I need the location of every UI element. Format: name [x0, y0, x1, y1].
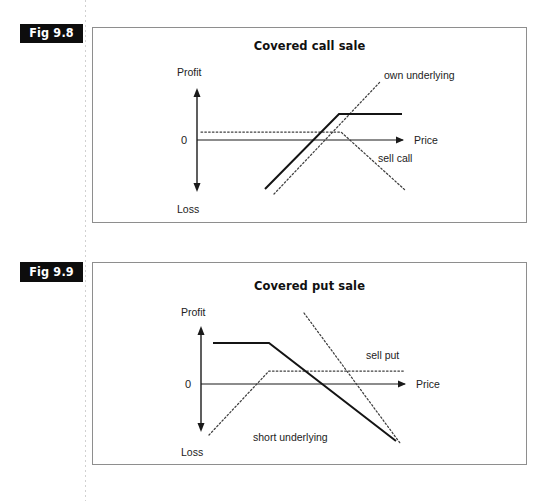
y-axis-up-arrow-icon [198, 326, 205, 335]
figure-badge-9-8-label: Fig 9.8 [29, 27, 74, 40]
figure-panel-9-8: Covered call sale [92, 27, 527, 223]
y-axis-bottom-label: Loss [181, 446, 203, 458]
figure-badge-9-9: Fig 9.9 [20, 262, 83, 282]
plot-covered-put-sale: Profit Loss 0 Price sell put short under… [93, 263, 528, 466]
series-label-own-underlying: own underlying [384, 69, 455, 81]
figure-badge-9-8: Fig 9.8 [20, 24, 83, 43]
plot-covered-call-sale: Profit Loss 0 Price own underlying sell … [93, 28, 528, 224]
origin-zero-label: 0 [181, 134, 187, 146]
figure-panel-9-9: Covered put sale [92, 262, 527, 465]
origin-zero-label: 0 [185, 378, 191, 390]
y-axis-top-label: Profit [177, 66, 202, 78]
series-label-short-underlying: short underlying [253, 431, 328, 443]
series-label-sell-put: sell put [366, 349, 399, 361]
series-own-underlying-line [274, 82, 380, 194]
figure-page: Fig 9.8 Covered call sale [0, 0, 545, 501]
y-axis-down-arrow-icon [198, 423, 205, 432]
y-axis-down-arrow-icon [194, 183, 201, 192]
y-axis-up-arrow-icon [194, 88, 201, 97]
x-axis-label: Price [416, 378, 440, 390]
figure-badge-9-9-label: Fig 9.9 [29, 265, 74, 278]
page-gutter-rule [85, 0, 86, 501]
y-axis-bottom-label: Loss [177, 203, 199, 215]
y-axis-top-label: Profit [181, 306, 206, 318]
series-label-sell-call: sell call [378, 152, 412, 164]
series-sell-call-line [201, 132, 405, 190]
series-short-underlying-line [304, 313, 400, 443]
x-axis-label: Price [414, 134, 438, 146]
